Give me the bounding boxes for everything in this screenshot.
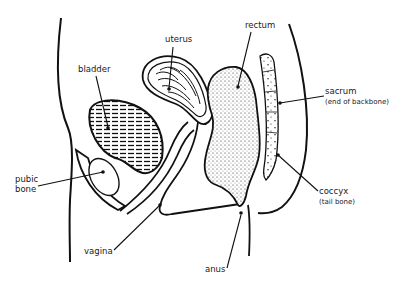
anal-canal-outline [248,205,250,256]
diagram-drawing [0,0,399,286]
sacrum-shape [260,54,278,180]
label-anus: anus [205,264,225,274]
label-bladder: bladder [78,64,110,74]
label-coccyx-note: (tail bone) [319,197,355,207]
label-pubic-bone-line1: pubic [15,174,38,184]
body-back-outline [258,24,307,213]
label-rectum: rectum [245,20,275,30]
rectum-shape [205,67,260,206]
body-front-outline [58,18,72,262]
label-uterus: uterus [165,34,192,44]
pelvic-anatomy-diagram: uterus bladder rectum sacrum (end of bac… [0,0,399,286]
label-coccyx: coccyx [319,186,348,196]
label-pubic-bone-line2: bone [15,184,36,194]
label-vagina: vagina [84,246,113,256]
label-sacrum-note: (end of backbone) [325,97,389,107]
label-sacrum: sacrum [325,86,356,96]
